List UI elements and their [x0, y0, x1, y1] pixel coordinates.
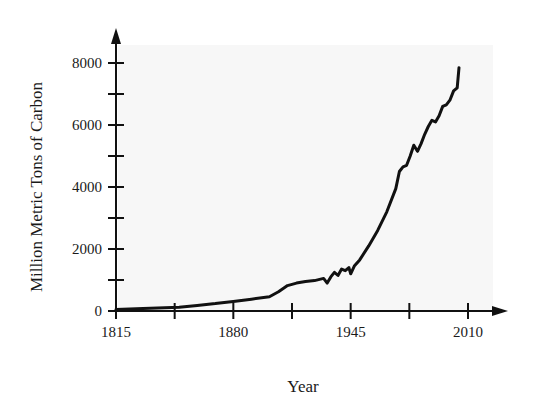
x-tick-label: 1815 — [101, 324, 131, 340]
y-axis: 02000400060008000 — [72, 28, 124, 319]
x-tick-label: 1880 — [218, 324, 248, 340]
x-tick-label: 1945 — [336, 324, 366, 340]
y-tick-label: 2000 — [72, 241, 102, 257]
y-tick-label: 0 — [95, 303, 103, 319]
x-tick-label: 2010 — [453, 324, 483, 340]
y-tick-label: 8000 — [72, 55, 102, 71]
y-tick-label: 6000 — [72, 117, 102, 133]
y-axis-arrow-icon — [111, 28, 121, 44]
y-axis-title: Million Metric Tons of Carbon — [27, 81, 46, 292]
y-tick-label: 4000 — [72, 179, 102, 195]
carbon-emissions-chart: 02000400060008000 1815188019452010 Year … — [0, 0, 541, 410]
x-axis-title: Year — [287, 377, 319, 396]
plot-background — [118, 45, 493, 311]
x-axis-arrow-icon — [492, 306, 508, 316]
